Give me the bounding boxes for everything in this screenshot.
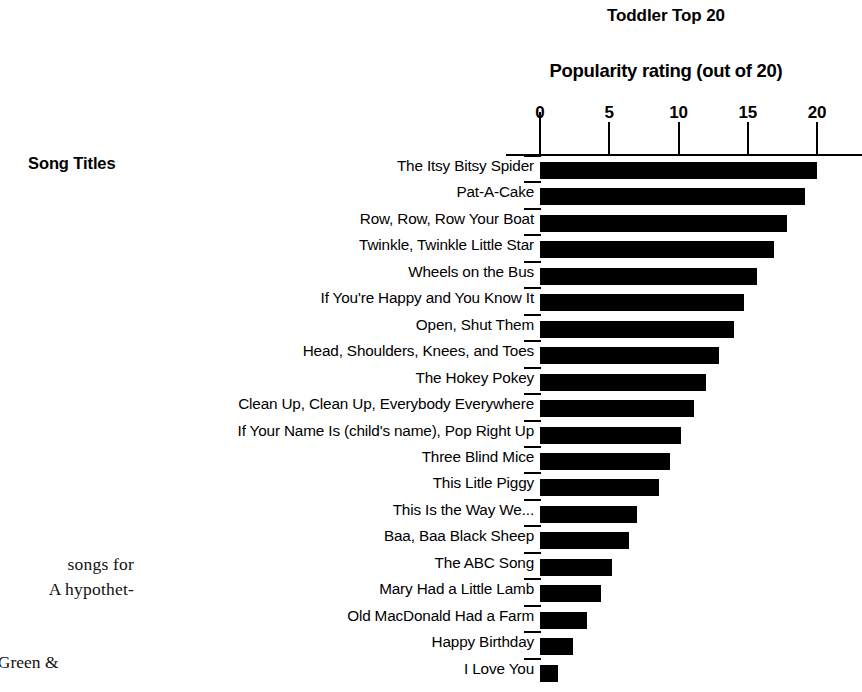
bar (540, 612, 587, 629)
bar (540, 241, 774, 258)
x-axis-tick-label: 0 (535, 103, 544, 123)
bar-category-label: Three Blind Mice (422, 448, 534, 466)
bar-row: Wheels on the Bus (0, 261, 862, 287)
bar-row: Twinkle, Twinkle Little Star (0, 234, 862, 260)
bar (540, 374, 706, 391)
bar-category-label: Baa, Baa Black Sheep (384, 527, 534, 545)
bar-category-label: This Is the Way We... (393, 501, 534, 519)
bar-category-label: Clean Up, Clean Up, Everybody Everywhere (238, 395, 534, 413)
bar-row: Mary Had a Little Lamb (0, 578, 862, 604)
bar-category-label: Old MacDonald Had a Farm (347, 607, 534, 625)
bar-row: This Litle Piggy (0, 472, 862, 498)
bar (540, 321, 734, 338)
bar-category-label: The Itsy Bitsy Spider (397, 157, 534, 175)
bar-category-label: If You're Happy and You Know It (321, 289, 534, 307)
bar-category-label: Pat-A-Cake (456, 183, 534, 201)
bar (540, 638, 573, 655)
bar (540, 268, 757, 285)
x-axis-tick-label: 20 (808, 103, 827, 123)
bar (540, 162, 817, 179)
bar (540, 665, 558, 682)
bar-row: I Love You (0, 658, 862, 684)
bar (540, 453, 670, 470)
bar-row: This Is the Way We... (0, 499, 862, 525)
bar-row: Head, Shoulders, Knees, and Toes (0, 340, 862, 366)
bar-row: If Your Name Is (child's name), Pop Righ… (0, 420, 862, 446)
bar (540, 479, 659, 496)
x-axis-tick-label: 10 (669, 103, 688, 123)
bar-category-label: Open, Shut Them (416, 316, 534, 334)
x-axis-tick-mark (678, 122, 680, 155)
bar-category-label: Head, Shoulders, Knees, and Toes (303, 342, 534, 360)
bar-category-label: Wheels on the Bus (408, 263, 534, 281)
bar-row: The Itsy Bitsy Spider (0, 155, 862, 181)
bar (540, 427, 681, 444)
x-axis-tick-mark (539, 122, 541, 155)
bar-row: The Hokey Pokey (0, 367, 862, 393)
bar-row: Happy Birthday (0, 631, 862, 657)
bar (540, 294, 744, 311)
bar-category-label: Mary Had a Little Lamb (379, 580, 534, 598)
bar-chart-plot-area: 05101520 The Itsy Bitsy SpiderPat-A-Cake… (0, 0, 862, 692)
bar-category-label: The Hokey Pokey (416, 369, 534, 387)
bar-category-label: Twinkle, Twinkle Little Star (359, 236, 534, 254)
bar-category-label: The ABC Song (435, 554, 534, 572)
bar (540, 215, 787, 232)
bar-category-label: This Litle Piggy (433, 474, 534, 492)
bar-row: Old MacDonald Had a Farm (0, 605, 862, 631)
bar-category-label: If Your Name Is (child's name), Pop Righ… (238, 422, 534, 440)
bar (540, 585, 601, 602)
x-axis-tick-mark (747, 122, 749, 155)
x-axis-tick-label: 15 (738, 103, 757, 123)
bar-row: Open, Shut Them (0, 314, 862, 340)
bar-row: If You're Happy and You Know It (0, 287, 862, 313)
bar-row: Row, Row, Row Your Boat (0, 208, 862, 234)
bar-category-label: Row, Row, Row Your Boat (360, 210, 534, 228)
x-axis-tick-mark (608, 122, 610, 155)
bar (540, 347, 719, 364)
bar-row: Baa, Baa Black Sheep (0, 525, 862, 551)
x-axis-tick-label: 5 (605, 103, 614, 123)
bar-row: Pat-A-Cake (0, 181, 862, 207)
bar-row: The ABC Song (0, 552, 862, 578)
bar (540, 506, 637, 523)
bar (540, 400, 694, 417)
x-axis-tick-mark (816, 122, 818, 155)
bar (540, 188, 805, 205)
bar-category-label: Happy Birthday (432, 633, 534, 651)
bar-row: Clean Up, Clean Up, Everybody Everywhere (0, 393, 862, 419)
bar-category-label: I Love You (464, 660, 534, 678)
bar (540, 559, 612, 576)
bar (540, 532, 629, 549)
bar-row: Three Blind Mice (0, 446, 862, 472)
